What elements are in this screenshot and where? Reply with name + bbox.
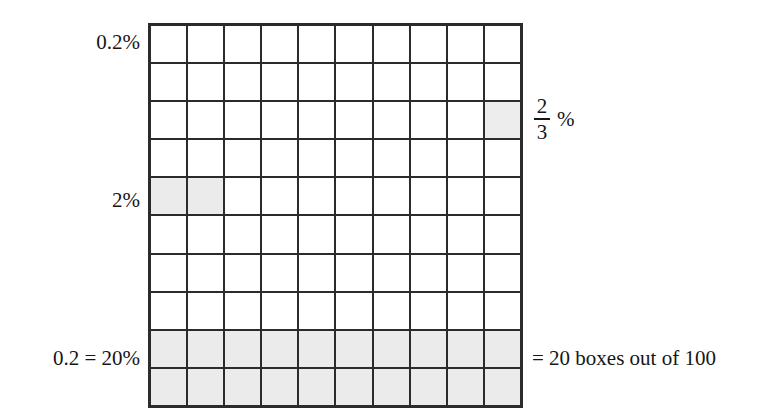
grid-cell-r2-c2 <box>188 64 223 100</box>
label-two-thirds-percent: 2 3 % <box>534 95 575 143</box>
grid-cell-r4-c7 <box>374 140 409 176</box>
grid-cell-r6-c7 <box>374 216 409 252</box>
grid-cell-r2-c5 <box>299 64 334 100</box>
grid-cell-r3-c9 <box>448 102 483 138</box>
grid-cell-r4-c4 <box>262 140 297 176</box>
grid-cell-r2-c9 <box>448 64 483 100</box>
grid-cell-r2-c8 <box>411 64 446 100</box>
grid-cell-r10-c4 <box>262 369 297 405</box>
grid-cell-r2-c10 <box>485 64 520 100</box>
grid-cell-r5-c2 <box>188 178 223 214</box>
grid-cell-r6-c10 <box>485 216 520 252</box>
grid-cell-r4-c3 <box>225 140 260 176</box>
grid-cell-r6-c4 <box>262 216 297 252</box>
grid-cell-r4-c5 <box>299 140 334 176</box>
grid-container <box>148 23 523 408</box>
grid-cell-r2-c6 <box>336 64 371 100</box>
grid-cell-r7-c3 <box>225 255 260 291</box>
grid-cell-r9-c3 <box>225 331 260 367</box>
grid-cell-r10-c8 <box>411 369 446 405</box>
grid-cell-r2-c7 <box>374 64 409 100</box>
grid-cell-r8-c8 <box>411 293 446 329</box>
grid-cell-r9-c7 <box>374 331 409 367</box>
percent-grid <box>148 23 523 408</box>
grid-cell-r1-c9 <box>448 26 483 62</box>
grid-cell-r4-c8 <box>411 140 446 176</box>
grid-cell-r8-c4 <box>262 293 297 329</box>
grid-cell-r9-c8 <box>411 331 446 367</box>
grid-cell-r10-c10 <box>485 369 520 405</box>
grid-cell-r3-c1 <box>151 102 186 138</box>
grid-cell-r3-c6 <box>336 102 371 138</box>
fraction-two-thirds: 2 3 <box>534 95 550 143</box>
grid-cell-r3-c4 <box>262 102 297 138</box>
grid-cell-r3-c3 <box>225 102 260 138</box>
grid-cell-r9-c1 <box>151 331 186 367</box>
fraction-denominator: 3 <box>535 120 550 143</box>
grid-cell-r6-c2 <box>188 216 223 252</box>
grid-cell-r2-c3 <box>225 64 260 100</box>
grid-cell-r7-c5 <box>299 255 334 291</box>
grid-cell-r2-c1 <box>151 64 186 100</box>
grid-cell-r7-c6 <box>336 255 371 291</box>
grid-cell-r8-c7 <box>374 293 409 329</box>
grid-cell-r7-c7 <box>374 255 409 291</box>
grid-cell-r5-c3 <box>225 178 260 214</box>
label-zero-point-two-percent: 0.2% <box>88 32 140 53</box>
grid-cell-r5-c7 <box>374 178 409 214</box>
grid-cell-r5-c10 <box>485 178 520 214</box>
grid-cell-r8-c9 <box>448 293 483 329</box>
grid-cell-r7-c1 <box>151 255 186 291</box>
grid-cell-r2-c4 <box>262 64 297 100</box>
grid-cell-r7-c8 <box>411 255 446 291</box>
grid-cell-r6-c5 <box>299 216 334 252</box>
grid-cell-r4-c1 <box>151 140 186 176</box>
grid-cell-r6-c9 <box>448 216 483 252</box>
grid-cell-r6-c1 <box>151 216 186 252</box>
percent-sign: % <box>557 107 575 132</box>
grid-cell-r9-c4 <box>262 331 297 367</box>
grid-cell-r8-c1 <box>151 293 186 329</box>
grid-cell-r8-c6 <box>336 293 371 329</box>
grid-cell-r8-c2 <box>188 293 223 329</box>
grid-cell-r3-c5 <box>299 102 334 138</box>
grid-cell-r9-c10 <box>485 331 520 367</box>
label-point-two-equals-twenty-percent: 0.2 = 20% <box>10 348 140 369</box>
grid-cell-r5-c4 <box>262 178 297 214</box>
grid-cell-r1-c5 <box>299 26 334 62</box>
label-twenty-boxes-out-of-one-hundred: = 20 boxes out of 100 <box>532 348 716 369</box>
grid-cell-r3-c2 <box>188 102 223 138</box>
percent-grid-figure: 0.2% 2% 0.2 = 20% = 20 boxes out of 100 … <box>0 0 758 420</box>
grid-cell-r1-c4 <box>262 26 297 62</box>
grid-cell-r6-c3 <box>225 216 260 252</box>
grid-cell-r4-c9 <box>448 140 483 176</box>
grid-cell-r8-c10 <box>485 293 520 329</box>
grid-cell-r9-c6 <box>336 331 371 367</box>
grid-cell-r8-c3 <box>225 293 260 329</box>
grid-cell-r7-c10 <box>485 255 520 291</box>
grid-cell-r1-c2 <box>188 26 223 62</box>
grid-cell-r7-c4 <box>262 255 297 291</box>
grid-cell-r10-c6 <box>336 369 371 405</box>
grid-cell-r1-c10 <box>485 26 520 62</box>
grid-cell-r9-c5 <box>299 331 334 367</box>
grid-cell-r10-c9 <box>448 369 483 405</box>
grid-cell-r5-c5 <box>299 178 334 214</box>
grid-cell-r10-c1 <box>151 369 186 405</box>
grid-cell-r10-c5 <box>299 369 334 405</box>
grid-cell-r10-c2 <box>188 369 223 405</box>
grid-cell-r5-c9 <box>448 178 483 214</box>
grid-cell-r5-c8 <box>411 178 446 214</box>
grid-cell-r1-c7 <box>374 26 409 62</box>
grid-cell-r6-c8 <box>411 216 446 252</box>
grid-cell-r10-c3 <box>225 369 260 405</box>
grid-cell-r4-c2 <box>188 140 223 176</box>
grid-cell-r7-c9 <box>448 255 483 291</box>
grid-cell-r3-c7 <box>374 102 409 138</box>
grid-cell-r6-c6 <box>336 216 371 252</box>
grid-cell-r9-c2 <box>188 331 223 367</box>
grid-cell-r1-c8 <box>411 26 446 62</box>
grid-cell-r1-c1 <box>151 26 186 62</box>
grid-cell-r5-c6 <box>336 178 371 214</box>
grid-cell-r9-c9 <box>448 331 483 367</box>
